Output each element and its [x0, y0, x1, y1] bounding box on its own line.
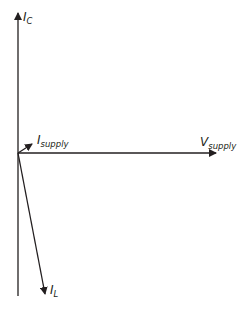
phasor-diagram: IC Isupply Vsupply IL: [0, 0, 243, 311]
phasor-il-arrow: [18, 153, 45, 294]
label-il-sub: L: [54, 289, 59, 299]
label-vsupply: Vsupply: [200, 136, 236, 151]
label-isupply: Isupply: [37, 134, 69, 149]
phasor-canvas: [0, 0, 243, 311]
label-vsupply-main: V: [200, 135, 208, 149]
label-ic: IC: [23, 11, 32, 26]
label-vsupply-sub: supply: [208, 141, 236, 151]
label-ic-sub: C: [27, 16, 33, 26]
label-il: IL: [50, 284, 58, 299]
label-isupply-sub: supply: [41, 139, 69, 149]
phasor-isupply-arrow: [18, 144, 32, 153]
